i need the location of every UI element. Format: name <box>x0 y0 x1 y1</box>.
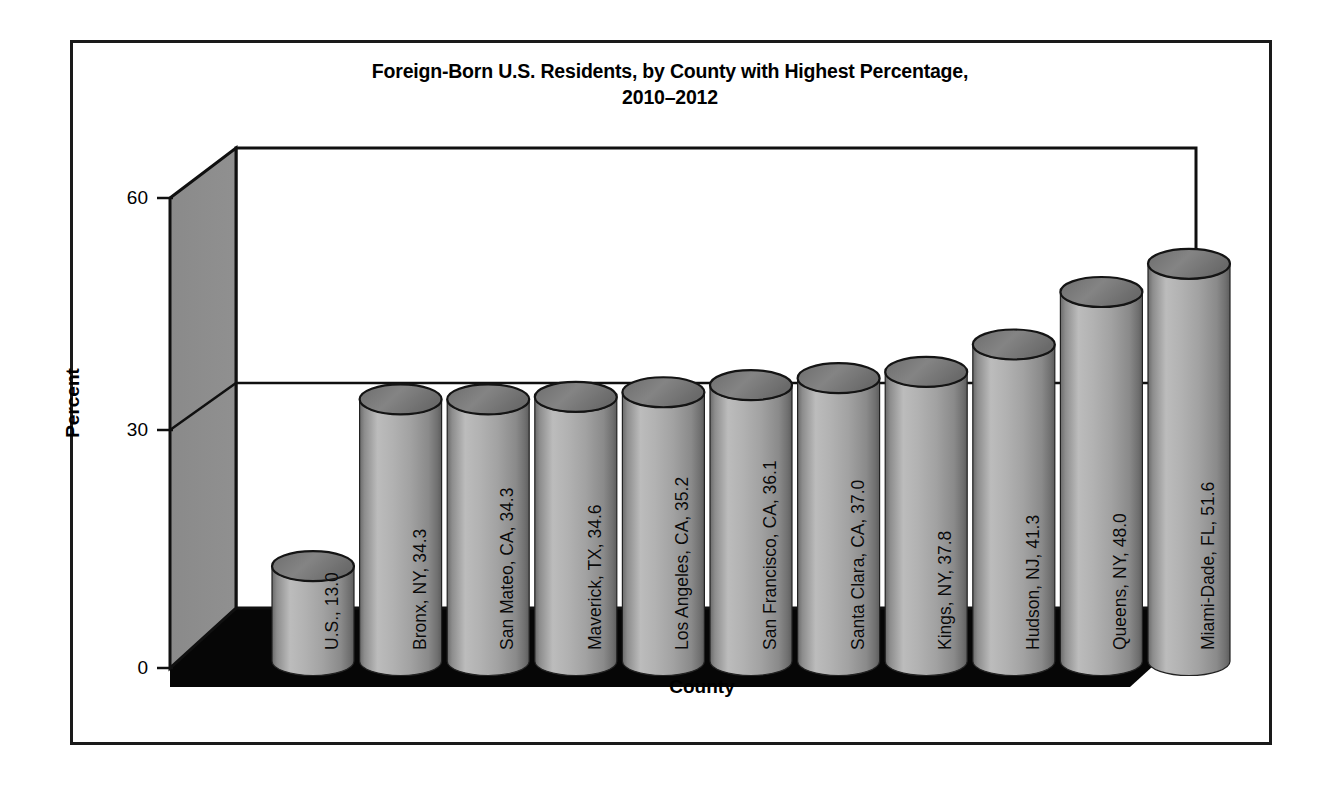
bar-label: Bronx, NY, 34.3 <box>410 529 431 650</box>
bar-label: Kings, NY, 37.8 <box>935 531 956 650</box>
y-axis-title: Percent <box>62 323 84 483</box>
chart-3d-scene <box>157 148 1230 687</box>
bar-label: Santa Clara, CA, 37.0 <box>848 480 869 650</box>
bar-cylinder-cap <box>973 329 1055 359</box>
y-tick-label-30: 30 <box>88 419 148 441</box>
y-tick-label-0: 0 <box>88 657 148 679</box>
bar-cylinder-cap <box>885 357 967 387</box>
bar-cylinder-cap <box>535 382 617 412</box>
bar-label: Miami-Dade, FL, 51.6 <box>1198 482 1219 650</box>
bar-cylinder-cap <box>1148 249 1230 279</box>
bar-cylinder-cap <box>798 363 880 393</box>
bar-label: Maverick, TX, 34.6 <box>585 504 606 650</box>
bar-cylinder-cap <box>622 377 704 407</box>
bar-label: U.S., 13.0 <box>322 572 343 650</box>
chart-page: Foreign-Born U.S. Residents, by County w… <box>0 0 1344 785</box>
bar-cylinder-cap <box>710 370 792 400</box>
bar-cylinder-cap <box>1060 277 1142 307</box>
y-tick-label-60: 60 <box>88 187 148 209</box>
bar-label: Los Angeles, CA, 35.2 <box>672 477 693 650</box>
chart-canvas <box>0 0 1344 785</box>
bar-label: Hudson, NJ, 41.3 <box>1023 515 1044 650</box>
bar-label: Queens, NY, 48.0 <box>1110 513 1131 650</box>
bar-cylinder-cap <box>360 384 442 414</box>
bar-label: San Francisco, CA, 36.1 <box>760 460 781 650</box>
x-axis-title: County <box>472 676 932 698</box>
bar-label: San Mateo, CA, 34.3 <box>497 488 518 650</box>
bar-cylinder-cap <box>447 384 529 414</box>
